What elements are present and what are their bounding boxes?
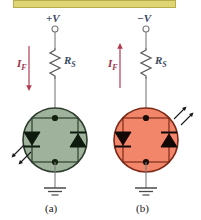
panel-b-supply-label: −V bbox=[137, 13, 151, 24]
panel-b-resistor-symbol bbox=[141, 48, 151, 79]
panel-b-supply-terminal bbox=[143, 26, 149, 32]
panel-b-light-arrows bbox=[174, 108, 192, 125]
panel-b-junction-top bbox=[143, 115, 149, 121]
panel-b-resistor-label: RS bbox=[155, 55, 167, 69]
panel-a-resistor-label-sub: S bbox=[71, 60, 75, 69]
panel-a-current-label: IF bbox=[17, 58, 27, 72]
panel-b-current-label: IF bbox=[108, 58, 118, 72]
panel-a-junction-top bbox=[52, 115, 58, 121]
panel-a-resistor-symbol bbox=[50, 48, 60, 79]
panel-a-circuit bbox=[13, 26, 87, 195]
panel-a-supply-label: +V bbox=[46, 13, 60, 24]
panel-a-resistor-label: RS bbox=[64, 55, 76, 69]
panel-a-supply-terminal bbox=[52, 26, 58, 32]
panel-a-caption: (a) bbox=[45, 203, 57, 214]
figure-container: +V −V IF IF RS RS (a) (b) bbox=[0, 0, 201, 220]
circuit-diagram-svg bbox=[0, 0, 201, 220]
panel-a-ground-symbol bbox=[44, 188, 66, 195]
panel-a-current-label-sub: F bbox=[21, 63, 26, 72]
panel-b-resistor-label-sub: S bbox=[162, 60, 166, 69]
panel-b-circuit bbox=[114, 26, 192, 195]
panel-b-current-label-sub: F bbox=[112, 63, 117, 72]
panel-b-ground-symbol bbox=[135, 188, 157, 195]
panel-b-caption: (b) bbox=[136, 203, 149, 214]
